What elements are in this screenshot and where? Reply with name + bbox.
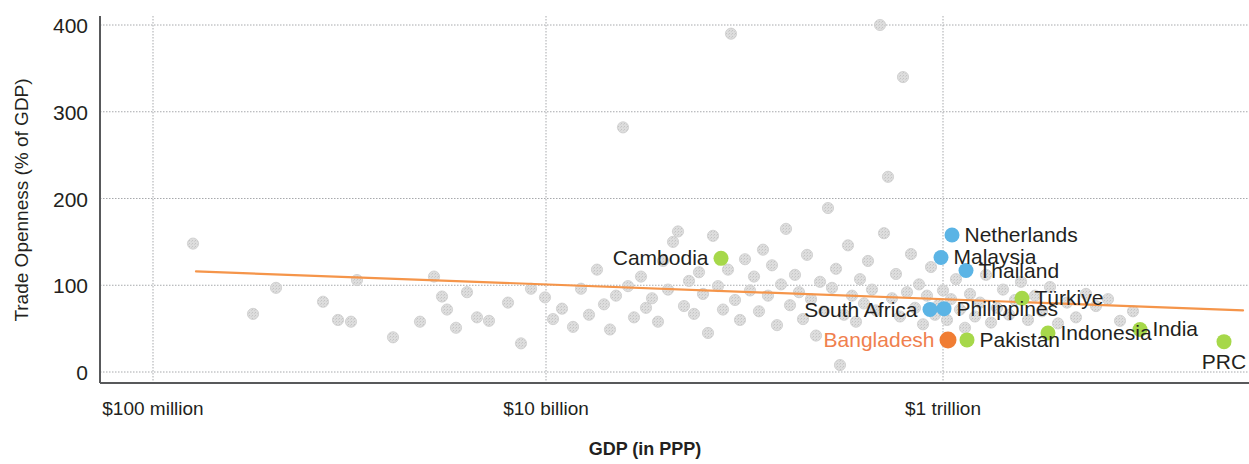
data-point [771, 320, 782, 331]
data-point [959, 322, 970, 333]
data-point [757, 244, 768, 255]
data-point [866, 284, 877, 295]
data-point [717, 304, 728, 315]
highlighted-point-malaysia [934, 250, 949, 265]
data-point [814, 276, 825, 287]
data-point [780, 223, 791, 234]
data-point [247, 308, 258, 319]
data-point [775, 279, 786, 290]
data-point [622, 281, 633, 292]
data-point [598, 299, 609, 310]
highlighted-point-prc [1217, 334, 1232, 349]
y-tick-label: 200 [53, 188, 88, 211]
data-point [789, 269, 800, 280]
data-point [583, 309, 594, 320]
data-point [890, 268, 901, 279]
data-point [332, 314, 343, 325]
data-point [822, 202, 833, 213]
data-point [567, 321, 578, 332]
data-point [414, 316, 425, 327]
data-point [725, 28, 736, 39]
data-point [345, 316, 356, 327]
data-point [997, 284, 1008, 295]
data-point [652, 316, 663, 327]
data-point [351, 274, 362, 285]
highlighted-point-cambodia [714, 251, 729, 266]
x-tick-label: $10 billion [503, 398, 589, 419]
data-point [729, 294, 740, 305]
y-tick-label: 400 [53, 14, 88, 37]
y-tick-label: 0 [76, 361, 88, 384]
data-point [672, 226, 683, 237]
data-point [387, 332, 398, 343]
data-point [874, 19, 885, 30]
data-point [826, 282, 837, 293]
y-axis-title: Trade Openness (% of GDP) [11, 78, 32, 321]
data-point [515, 338, 526, 349]
data-point [830, 263, 841, 274]
data-point [882, 171, 893, 182]
point-label-netherlands: Netherlands [965, 223, 1078, 246]
highlighted-point-pakistan [960, 332, 975, 347]
data-point [556, 303, 567, 314]
data-point [854, 274, 865, 285]
point-label-thailand: Thailand [979, 259, 1060, 282]
highlighted-point-netherlands [945, 227, 960, 242]
data-point [547, 313, 558, 324]
trade-openness-scatter-chart: 0100200300400 $100 million$10 billion$1 … [0, 0, 1249, 464]
plot-area: 0100200300400 $100 million$10 billion$1 … [0, 0, 1249, 464]
point-label-türkiye: Türkiye [1035, 286, 1104, 309]
point-label-bangladesh: Bangladesh [824, 328, 935, 351]
data-point [610, 290, 621, 301]
data-point [925, 261, 936, 272]
point-label-indonesia: Indonesia [1061, 321, 1152, 344]
data-point [702, 327, 713, 338]
y-axis-tick-labels: 0100200300400 [53, 14, 88, 384]
data-point [483, 315, 494, 326]
data-point [901, 287, 912, 298]
data-point [937, 285, 948, 296]
data-point [461, 287, 472, 298]
data-point [628, 312, 639, 323]
data-point [441, 304, 452, 315]
data-point [436, 291, 447, 302]
data-point [707, 230, 718, 241]
x-tick-label: $100 million [102, 398, 203, 419]
point-label-pakistan: Pakistan [980, 328, 1061, 351]
data-point [801, 249, 812, 260]
data-point [187, 238, 198, 249]
data-point [270, 282, 281, 293]
data-point [810, 330, 821, 341]
data-point [753, 306, 764, 317]
data-point [317, 296, 328, 307]
data-point [913, 279, 924, 290]
x-tick-label: $1 trillion [905, 398, 981, 419]
data-point [766, 260, 777, 271]
x-axis-title: GDP (in PPP) [589, 439, 702, 459]
data-point [688, 308, 699, 319]
data-point [842, 240, 853, 251]
point-label-prc: PRC [1202, 350, 1246, 373]
data-point [591, 264, 602, 275]
data-point [834, 359, 845, 370]
data-point [502, 297, 513, 308]
point-label-south-africa: South Africa [804, 298, 918, 321]
data-point [734, 314, 745, 325]
point-label-cambodia: Cambodia [613, 246, 709, 269]
highlighted-point-bangladesh [940, 331, 957, 348]
data-point [604, 324, 615, 335]
data-point [793, 287, 804, 298]
data-point [739, 254, 750, 265]
data-point [683, 275, 694, 286]
point-label-india: India [1153, 317, 1199, 340]
y-tick-label: 100 [53, 274, 88, 297]
data-point [722, 264, 733, 275]
highlighted-point-south-africa [923, 302, 938, 317]
data-point [905, 248, 916, 259]
data-point [950, 274, 961, 285]
data-point [471, 312, 482, 323]
data-point [646, 293, 657, 304]
data-point [784, 300, 795, 311]
data-point [744, 285, 755, 296]
data-point [539, 292, 550, 303]
